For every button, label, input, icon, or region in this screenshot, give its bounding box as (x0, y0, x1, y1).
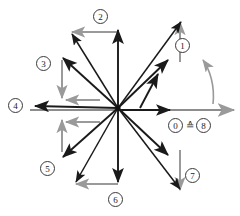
equivalence-symbol: ≙ (184, 118, 195, 133)
label-1: 1 (175, 38, 190, 53)
vector-5 (63, 108, 118, 157)
label-5: 5 (40, 161, 55, 176)
rotation-arc-path (203, 60, 213, 104)
label-0: 0 (168, 118, 183, 133)
vector-6-alt (76, 108, 118, 182)
vector-2-alt (72, 34, 118, 108)
vector-star-diagram (0, 0, 240, 216)
main-vectors (35, 22, 181, 189)
label-4: 4 (8, 98, 23, 113)
vector-7-inner (118, 108, 168, 155)
vector-4 (35, 106, 118, 108)
label-8: 8 (196, 118, 211, 133)
label-7: 7 (185, 168, 200, 183)
origin-dot (115, 105, 120, 110)
vector-1 (118, 22, 181, 108)
label-3: 3 (36, 56, 51, 71)
label-2: 2 (93, 9, 108, 24)
label-6: 6 (108, 192, 123, 207)
rotation-arc (203, 60, 213, 104)
